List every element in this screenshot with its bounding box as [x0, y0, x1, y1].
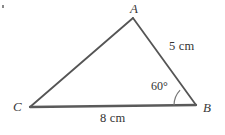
- vertex-label-a: A: [130, 2, 138, 15]
- triangle-side-ca: [30, 18, 133, 107]
- vertex-label-c: C: [13, 100, 22, 113]
- side-length-label-cb: 8 cm: [100, 112, 125, 125]
- angle-arc-b: [174, 90, 180, 105]
- side-length-label-ab: 5 cm: [169, 40, 194, 53]
- angle-measure-label-b: 60°: [151, 80, 168, 92]
- vertex-label-b: B: [203, 101, 211, 114]
- geometry-figure: A B C 5 cm 8 cm 60°: [0, 0, 225, 135]
- triangle-side-cb: [30, 105, 196, 107]
